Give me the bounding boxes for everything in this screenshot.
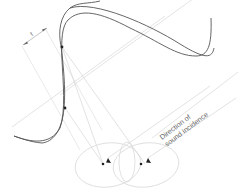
- sound-incidence-diagram: t Direction of sound incidence: [0, 0, 244, 192]
- dimension-extension-right: [46, 30, 102, 130]
- direction-label: Direction of sound incidence: [158, 103, 210, 148]
- curve-point-upper: [61, 46, 64, 49]
- dimension-marker: t: [23, 28, 47, 45]
- dimension-label-t: t: [29, 31, 34, 37]
- ellipse-right-outer: [110, 139, 181, 192]
- source-dot-left: [102, 163, 105, 166]
- arrowhead-left-icon: [106, 158, 111, 163]
- dimension-extension-left: [22, 46, 80, 150]
- source-dot-right: [140, 163, 143, 166]
- arrowhead-right-icon: [146, 158, 151, 163]
- curve-point-lower: [64, 107, 67, 110]
- reflection-line-2: [65, 108, 103, 164]
- guide-line-upper: [12, 16, 165, 127]
- reflection-line-1: [62, 47, 103, 164]
- guide-line-top: [60, 0, 244, 95]
- reflection-line-3: [62, 47, 145, 164]
